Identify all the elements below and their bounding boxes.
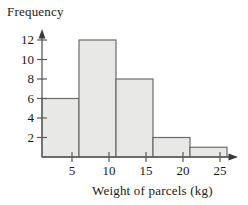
y-tick-label-2: 2: [14, 130, 34, 146]
bars-group: [42, 40, 227, 157]
bar-15-20: [153, 138, 190, 158]
x-tick-label-25: 25: [210, 163, 230, 179]
x-tick-label-5: 5: [62, 163, 82, 179]
y-tick-label-6: 6: [14, 91, 34, 107]
x-tick-label-15: 15: [136, 163, 156, 179]
y-tick-label-4: 4: [14, 110, 34, 126]
bar-20-25: [190, 147, 227, 157]
x-axis-arrow-icon: [229, 154, 239, 161]
y-axis-arrow-icon: [39, 29, 46, 39]
y-tick-label-8: 8: [14, 71, 34, 87]
x-tick-label-20: 20: [173, 163, 193, 179]
bar-10-15: [116, 79, 153, 157]
x-tick-label-10: 10: [99, 163, 119, 179]
x-axis-title: Weight of parcels (kg): [92, 183, 213, 199]
histogram-figure: Frequency: [0, 0, 248, 205]
y-tick-label-12: 12: [14, 32, 34, 48]
bar-0-5: [42, 99, 79, 158]
bar-5-10: [79, 40, 116, 157]
y-tick-label-10: 10: [14, 52, 34, 68]
